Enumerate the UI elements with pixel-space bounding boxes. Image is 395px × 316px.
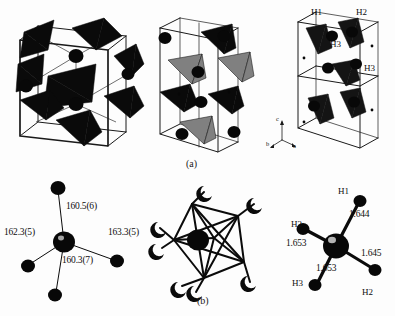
atom-label-h3-bond-lower: H3 xyxy=(292,278,303,288)
axis-label-b: b xyxy=(266,140,269,147)
angle-label-1633: 163.3(5) xyxy=(108,227,139,237)
atom-label-h3-cell-lower: H3 xyxy=(364,63,375,73)
angle-label-1623: 162.3(5) xyxy=(4,227,35,237)
atom-label-h3-cell-upper: H3 xyxy=(330,39,341,49)
caption-panel-b: (b) xyxy=(197,295,209,306)
bond-length-1645: 1.645 xyxy=(361,248,381,258)
crystal-axis-triad xyxy=(268,114,304,152)
angle-label-1603: 160.3(7) xyxy=(62,255,93,265)
angle-label-1605: 160.5(6) xyxy=(66,201,97,211)
bond-length-1653-upper: 1.653 xyxy=(286,238,306,248)
unit-cell-right xyxy=(292,6,394,154)
bond-angle-diagram xyxy=(18,176,148,306)
axis-label-c: c xyxy=(276,115,279,122)
bond-length-1644: 1.644 xyxy=(349,209,369,219)
atom-label-h2-cell: H2 xyxy=(356,7,367,17)
caption-panel-a: (a) xyxy=(186,158,197,169)
polyhedral-cage-diagram xyxy=(152,182,276,302)
atom-label-h1-bond: H1 xyxy=(338,186,349,196)
atom-label-h1-cell: H1 xyxy=(311,7,322,17)
crystal-structure-figure: H1 H2 H3 H3 c b a (a) xyxy=(0,0,395,316)
atom-label-h3-bond-upper: H3 xyxy=(291,219,302,229)
unit-cell-middle xyxy=(146,6,258,154)
unit-cell-left xyxy=(8,4,148,156)
bond-length-1653-lower: 1.653 xyxy=(316,263,336,273)
axis-label-a: a xyxy=(293,142,296,149)
atom-label-h2-bond: H2 xyxy=(362,287,373,297)
